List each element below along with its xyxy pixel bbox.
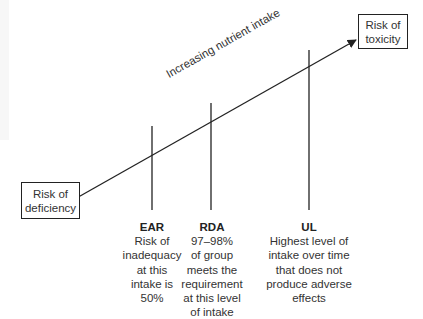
ear-desc-2: inadequacy [122, 248, 182, 262]
ul-desc-4: produce adverse [266, 277, 352, 291]
ul-desc-2: intake over time [266, 248, 352, 262]
rda-desc-5: at this level [176, 291, 248, 305]
rda-desc-1: 97–98% [176, 234, 248, 248]
ul-desc-1: Highest level of [266, 234, 352, 248]
rda-desc-4: requirement [176, 277, 248, 291]
rda-title: RDA [176, 220, 248, 234]
rda-label: RDA 97–98% of group meets the requiremen… [176, 220, 248, 319]
ear-desc-5: 50% [122, 291, 182, 305]
rda-desc-3: meets the [176, 263, 248, 277]
ear-desc-4: intake is [122, 277, 182, 291]
risk-of-deficiency-box: Risk of deficiency [21, 182, 80, 219]
ul-desc-5: effects [266, 291, 352, 305]
ear-label: EAR Risk of inadequacy at this intake is… [122, 220, 182, 305]
ear-desc-3: at this [122, 263, 182, 277]
ul-title: UL [266, 220, 352, 234]
risk-of-toxicity-box: Risk of toxicity [358, 14, 408, 49]
ear-title: EAR [122, 220, 182, 234]
ear-desc-1: Risk of [122, 234, 182, 248]
deficiency-line2: deficiency [22, 201, 79, 215]
toxicity-line1: Risk of [359, 18, 407, 32]
deficiency-line1: Risk of [22, 187, 79, 201]
ul-desc-3: that does not [266, 263, 352, 277]
rda-desc-6: of intake [176, 305, 248, 319]
ul-label: UL Highest level of intake over time tha… [266, 220, 352, 305]
rda-desc-2: of group [176, 248, 248, 262]
toxicity-line2: toxicity [359, 32, 407, 46]
